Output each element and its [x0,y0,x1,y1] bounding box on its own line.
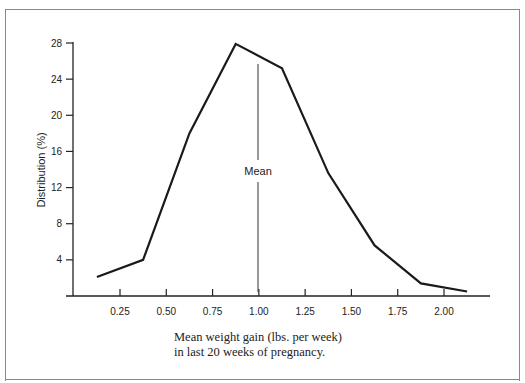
y-tick-label: 24 [51,74,63,85]
x-tick-label: 1.75 [388,306,408,317]
y-tick-label: 4 [56,254,62,265]
weight-gain-distribution-chart: 481216202428 0.250.500.751.001.251.501.7… [0,0,525,383]
y-tick-label: 20 [51,110,63,121]
x-tick-label: 1.50 [342,306,362,317]
x-tick-label: 0.25 [110,306,130,317]
y-axis-ticks: 481216202428 [51,38,73,266]
y-tick-label: 16 [51,146,63,157]
caption-line-1: Mean weight gain (lbs. per week) [174,330,434,345]
x-tick-label: 1.25 [295,306,315,317]
y-tick-label: 12 [51,182,63,193]
caption-line-2: in last 20 weeks of pregnancy. [174,345,434,360]
x-tick-label: 2.00 [434,306,454,317]
x-axis-caption: Mean weight gain (lbs. per week) in last… [174,330,434,360]
distribution-line [97,44,467,292]
x-axis-ticks: 0.250.500.751.001.251.501.752.00 [110,289,454,317]
x-tick-label: 0.50 [157,306,177,317]
y-tick-label: 28 [51,38,63,49]
mean-label: Mean [244,165,272,177]
x-tick-label: 0.75 [203,306,223,317]
y-tick-label: 8 [56,218,62,229]
y-axis-title: Distribution (%) [35,132,47,207]
x-tick-label: 1.00 [249,306,269,317]
